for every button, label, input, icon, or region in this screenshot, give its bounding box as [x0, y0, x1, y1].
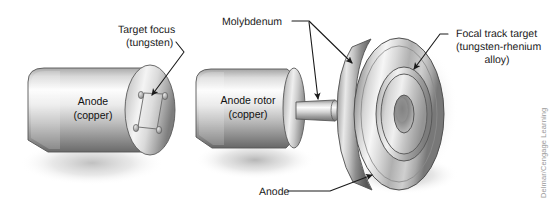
molybdenum-stem: [296, 100, 335, 121]
label-anode-rotor-line2: (copper): [228, 108, 267, 120]
label-anode-stationary-line1: Anode: [78, 95, 109, 107]
label-target-focus-line2: (tungsten): [126, 37, 173, 49]
label-target-focus-line1: Target focus: [118, 24, 175, 36]
label-anode-disc: Anode: [259, 186, 290, 198]
label-anode-stationary-line2: (copper): [73, 109, 112, 121]
label-focal-track-line3: alloy): [484, 54, 509, 66]
label-anode-rotor-line1: Anode rotor: [221, 94, 276, 106]
label-molybdenum: Molybdenum: [222, 16, 282, 28]
figure-container: Target focus (tungsten) Anode (copper) M…: [0, 0, 558, 205]
credit-text: Delmar/Cengage Learning: [539, 108, 548, 198]
leader-molybdenum-rim: [292, 21, 352, 63]
label-focal-track-line1: Focal track target: [456, 28, 537, 40]
label-focal-track-line2: (tungsten-rhenium: [456, 41, 541, 53]
leader-molybdenum-stem: [309, 22, 318, 99]
anode-diagram-svg: Target focus (tungsten) Anode (copper) M…: [0, 0, 558, 205]
